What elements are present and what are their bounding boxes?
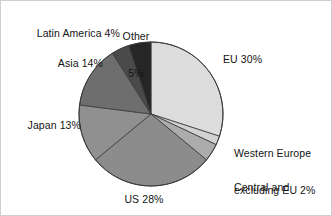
slice-label-japan: Japan 13% bbox=[3, 119, 81, 131]
slice-label-central-eastern-europe-line1: Central and bbox=[234, 181, 332, 193]
slice-label-other-line2: 5% bbox=[100, 67, 172, 79]
slice-label-other: Other 5% bbox=[100, 6, 172, 104]
slice-label-central-eastern-europe: Central and Eastern Europe 4% bbox=[234, 157, 332, 216]
slice-label-us: US 28% bbox=[109, 193, 179, 205]
pie-chart-figure: Other 5% Latin America 4% Asia 14% Japan… bbox=[0, 0, 332, 216]
slice-label-eu: EU 30% bbox=[223, 53, 293, 65]
slice-label-asia: Asia 14% bbox=[13, 57, 103, 69]
slice-label-latin-america: Latin America 4% bbox=[8, 27, 120, 39]
